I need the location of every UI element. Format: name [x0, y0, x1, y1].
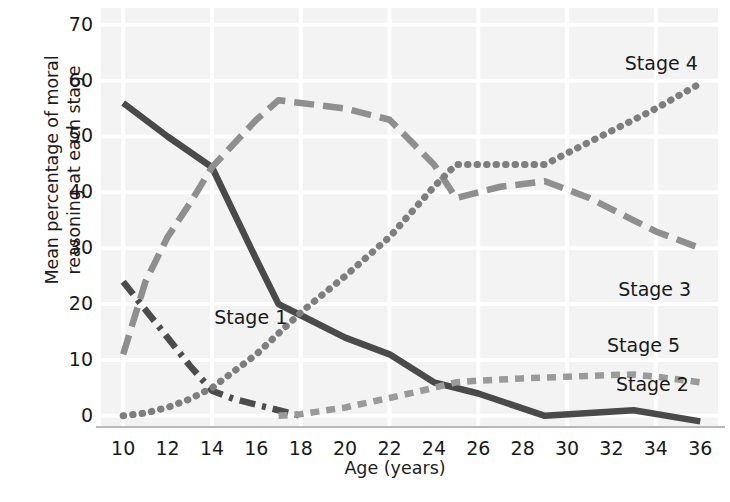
x-tick-label-14: 14: [192, 439, 232, 458]
series-label-stage-5: Stage 5: [607, 336, 680, 355]
x-tick-label-16: 16: [236, 439, 276, 458]
y-tick-label-50: 50: [49, 126, 93, 145]
x-axis-line: [96, 426, 725, 428]
x-tick-label-20: 20: [325, 439, 365, 458]
y-tick-label-20: 20: [49, 294, 93, 313]
x-tick-label-26: 26: [458, 439, 498, 458]
caption-remnant: [18, 487, 198, 494]
x-tick-label-18: 18: [281, 439, 321, 458]
series-lines: [123, 83, 700, 421]
y-tick-label-40: 40: [49, 182, 93, 201]
x-tick-label-34: 34: [636, 439, 676, 458]
x-tick-label-24: 24: [414, 439, 454, 458]
x-tick-label-10: 10: [103, 439, 143, 458]
y-tick-label-60: 60: [49, 71, 93, 90]
y-tick-label-0: 0: [49, 406, 93, 425]
x-tick-label-12: 12: [148, 439, 188, 458]
series-label-stage-4: Stage 4: [625, 54, 698, 73]
y-tick-label-30: 30: [49, 238, 93, 257]
series-label-stage-1: Stage 1: [214, 308, 287, 327]
x-axis-title-text: Age (years): [344, 458, 445, 478]
series-label-stage-3: Stage 3: [618, 280, 691, 299]
x-tick-label-30: 30: [547, 439, 587, 458]
x-tick-label-36: 36: [680, 439, 720, 458]
x-tick-label-28: 28: [503, 439, 543, 458]
y-tick-label-70: 70: [49, 15, 93, 34]
x-tick-label-32: 32: [591, 439, 631, 458]
series-label-stage-2: Stage 2: [616, 375, 689, 394]
x-axis-title: Age (years): [0, 458, 730, 478]
x-tick-label-22: 22: [370, 439, 410, 458]
chart-figure: Mean percentage of moral reasoning at ea…: [0, 0, 730, 502]
y-tick-label-10: 10: [49, 350, 93, 369]
